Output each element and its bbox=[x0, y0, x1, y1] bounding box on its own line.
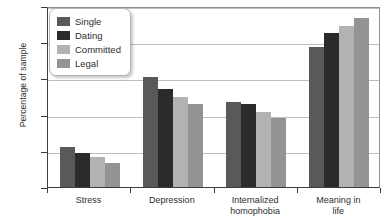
x-tick-mark bbox=[47, 188, 48, 193]
bar bbox=[241, 104, 256, 187]
bar bbox=[309, 47, 324, 187]
bar bbox=[60, 147, 75, 187]
x-tick-label: Depression bbox=[130, 195, 213, 206]
bar bbox=[158, 89, 173, 187]
legend-item: Committed bbox=[57, 42, 121, 56]
bar bbox=[354, 18, 369, 187]
bar bbox=[105, 163, 120, 187]
bar bbox=[271, 118, 286, 187]
legend-swatch-icon bbox=[57, 45, 70, 54]
bar-group bbox=[143, 8, 203, 187]
x-tick-label-line: homophobia bbox=[214, 206, 297, 217]
legend-item: Dating bbox=[57, 28, 121, 42]
bar bbox=[173, 97, 188, 188]
bar-chart: Percentage of sample 51015202530 StressD… bbox=[0, 0, 387, 223]
x-tick-label: Internalizedhomophobia bbox=[214, 195, 297, 217]
legend-label: Committed bbox=[75, 44, 121, 55]
bar bbox=[324, 33, 339, 187]
legend-label: Legal bbox=[75, 58, 98, 69]
bar bbox=[90, 157, 105, 187]
bar bbox=[188, 104, 203, 187]
bar-group bbox=[309, 8, 369, 187]
legend-label: Single bbox=[75, 16, 101, 27]
bar bbox=[256, 112, 271, 187]
x-tick-label-line: Depression bbox=[130, 195, 213, 206]
legend-swatch-icon bbox=[57, 31, 70, 40]
bar bbox=[143, 77, 158, 187]
bar bbox=[226, 102, 241, 187]
bar bbox=[75, 153, 90, 187]
legend-item: Single bbox=[57, 14, 121, 28]
x-tick-mark bbox=[214, 188, 215, 193]
x-tick-label: Meaning inlife bbox=[297, 195, 380, 217]
legend-item: Legal bbox=[57, 56, 121, 70]
x-tick-label-line: Stress bbox=[47, 195, 130, 206]
legend-swatch-icon bbox=[57, 59, 70, 68]
bar bbox=[339, 26, 354, 187]
x-tick-label-line: life bbox=[297, 206, 380, 217]
x-tick-mark bbox=[297, 188, 298, 193]
x-tick-label-line: Meaning in bbox=[297, 195, 380, 206]
y-axis-title: Percentage of sample bbox=[18, 10, 28, 160]
x-tick-label: Stress bbox=[47, 195, 130, 206]
bar-group bbox=[226, 8, 286, 187]
chart-legend: SingleDatingCommittedLegal bbox=[49, 8, 131, 76]
x-tick-label-line: Internalized bbox=[214, 195, 297, 206]
legend-swatch-icon bbox=[57, 17, 70, 26]
x-tick-mark bbox=[380, 188, 381, 193]
legend-label: Dating bbox=[75, 30, 102, 41]
x-tick-mark bbox=[130, 188, 131, 193]
